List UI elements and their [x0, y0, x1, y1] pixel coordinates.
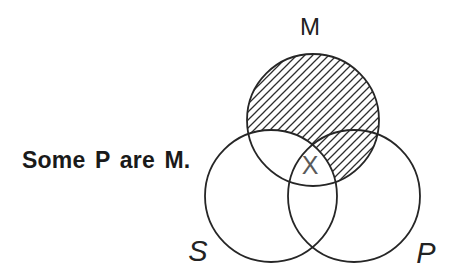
venn-diagram-panel: Some P are M. X M S P	[0, 0, 455, 280]
venn-diagram: X M S P	[0, 0, 455, 280]
x-mark: X	[302, 151, 319, 179]
label-p: P	[416, 237, 436, 269]
label-s: S	[188, 235, 208, 267]
label-m: M	[300, 13, 320, 40]
